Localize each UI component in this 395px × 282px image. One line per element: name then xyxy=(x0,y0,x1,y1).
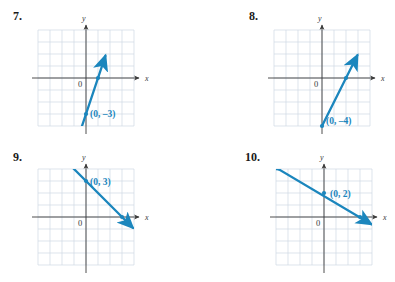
problem-10-origin-label: 0 xyxy=(316,218,320,228)
problem-10-y-axis-label: y xyxy=(319,153,324,162)
problem-10-x-axis-label: x xyxy=(382,213,387,222)
plotted-line xyxy=(81,56,106,130)
problem-9-point-label: (0, 3) xyxy=(90,177,111,188)
problem-7-y-axis-label: y xyxy=(81,14,86,23)
problem-8-y-axis-label: y xyxy=(317,14,322,23)
problem-8-point-label: (0, –4) xyxy=(326,116,351,127)
problem-7-point-label: (0, –3) xyxy=(90,109,115,120)
problem-10: 10. xyxy=(198,141,395,282)
problem-10-graph: x y 0 (0, 2) xyxy=(198,141,395,282)
problem-10-svg: x y 0 (0, 2) xyxy=(198,141,395,282)
problem-9-svg: x y 0 (0, 3) xyxy=(0,141,197,282)
intercept-marker xyxy=(320,124,324,128)
problem-7-x-axis-label: x xyxy=(144,74,149,83)
problem-8-origin-label: 0 xyxy=(314,79,318,89)
problem-8-x-axis-label: x xyxy=(380,74,385,83)
intercept-marker xyxy=(84,179,88,183)
problem-8-graph: x y 0 (0, –4) xyxy=(198,0,395,141)
problem-9-graph: x y 0 (0, 3) xyxy=(0,141,197,282)
x-intercept-marker xyxy=(358,215,362,219)
problem-7: 7. xyxy=(0,0,197,141)
x-intercept-marker xyxy=(96,76,100,80)
problem-7-graph: x y 0 (0, –3) xyxy=(0,0,197,141)
problem-7-line-group xyxy=(81,56,106,130)
intercept-marker xyxy=(322,191,326,195)
intercept-marker xyxy=(84,112,88,116)
problem-9-y-axis-label: y xyxy=(81,153,86,162)
problem-9-origin-label: 0 xyxy=(78,218,82,228)
problem-7-svg: x y 0 (0, –3) xyxy=(0,0,197,141)
x-intercept-marker xyxy=(120,215,124,219)
problem-8: 8. xyxy=(198,0,395,141)
x-intercept-marker xyxy=(344,76,348,80)
problem-9-x-axis-label: x xyxy=(144,213,149,222)
problem-8-svg: x y 0 (0, –4) xyxy=(198,0,395,141)
worksheet-page: 7. xyxy=(0,0,395,282)
problem-10-point-label: (0, 2) xyxy=(330,189,351,200)
problem-9: 9. xyxy=(0,141,197,282)
plotted-line xyxy=(279,170,371,225)
problem-10-line-group xyxy=(279,170,371,225)
problem-7-origin-label: 0 xyxy=(78,79,82,89)
